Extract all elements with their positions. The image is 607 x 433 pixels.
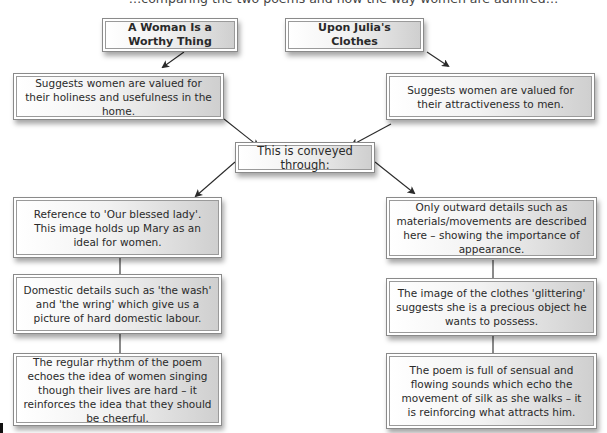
left-evidence-box-1: Reference to 'Our blessed lady'. This im… <box>13 197 222 258</box>
right-evidence-3: The poem is full of sensual and flowing … <box>389 356 594 426</box>
right-evidence-1: Only outward details such as materials/m… <box>389 200 594 256</box>
right-evidence-2: The image of the clothes 'glittering' su… <box>389 281 594 333</box>
left-evidence-3: The regular rhythm of the poem echoes th… <box>16 356 219 423</box>
edge-mark <box>0 423 3 433</box>
poem-title-box-2: Upon Julia's Clothes <box>285 18 424 52</box>
connector-box: This is conveyed through: <box>235 142 375 173</box>
connector-text: This is conveyed through: <box>238 145 372 170</box>
poem-summary-2: Suggests women are valued for their attr… <box>389 76 592 117</box>
left-evidence-box-3: The regular rhythm of the poem echoes th… <box>13 353 222 426</box>
right-evidence-box-1: Only outward details such as materials/m… <box>386 197 597 259</box>
poem-title-box-1: A Woman Is a Worthy Thing <box>102 18 238 52</box>
poem-title-1: A Woman Is a Worthy Thing <box>105 21 235 49</box>
left-evidence-1: Reference to 'Our blessed lady'. This im… <box>16 200 219 255</box>
left-evidence-2: Domestic details such as 'the wash' and … <box>16 277 219 331</box>
right-evidence-box-3: The poem is full of sensual and flowing … <box>386 353 597 429</box>
poem-summary-box-1: Suggests women are valued for their holi… <box>13 73 224 120</box>
poem-summary-box-2: Suggests women are valued for their attr… <box>386 73 595 120</box>
poem-summary-1: Suggests women are valued for their holi… <box>16 76 221 117</box>
left-evidence-box-2: Domestic details such as 'the wash' and … <box>13 274 222 334</box>
right-evidence-box-2: The image of the clothes 'glittering' su… <box>386 278 597 336</box>
poem-title-2: Upon Julia's Clothes <box>288 21 421 49</box>
